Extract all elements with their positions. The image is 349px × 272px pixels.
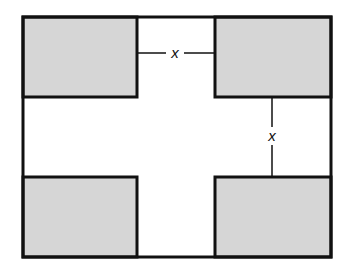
corner-square-top-left [23, 17, 137, 97]
diagram-canvas: x x [0, 0, 349, 272]
corner-square-bottom-left [23, 177, 137, 257]
label-top-gap: x [170, 44, 179, 61]
corner-square-bottom-right [215, 177, 331, 257]
label-right-gap: x [267, 127, 276, 144]
corner-square-top-right [215, 17, 331, 97]
